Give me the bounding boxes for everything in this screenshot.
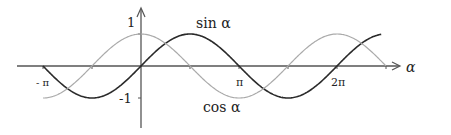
sin-series-label: sin α [196, 15, 231, 31]
y-tick-label-minus-1: -1 [119, 91, 132, 106]
cos-series-label: cos α [203, 99, 241, 115]
y-tick-label-1: 1 [127, 15, 135, 30]
x-axis-label: α [406, 59, 416, 75]
x-tick-label-minus-pi: - π [36, 77, 50, 88]
x-tick-label-pi: π [236, 76, 243, 89]
trig-chart: α 1 -1 - π π 2π sin α cos α [0, 0, 451, 135]
x-tick-label-2pi: 2π [331, 76, 345, 89]
